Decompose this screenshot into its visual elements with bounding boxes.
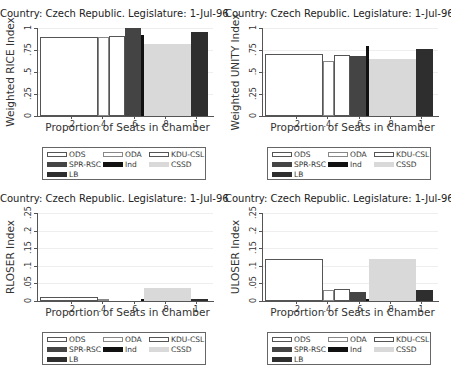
legend-swatch — [374, 162, 394, 167]
rice-panel: Country: Czech Republic. Legislature: 1-… — [0, 0, 225, 184]
y-axis — [37, 213, 38, 301]
legend-swatch — [272, 172, 292, 177]
x-tick-mark — [165, 301, 166, 304]
legend-swatch — [149, 337, 169, 342]
legend-item-kdu-csl: KDU-CSL — [374, 335, 429, 344]
legend-item-cssd: CSSD — [149, 345, 192, 354]
bar-cssd — [144, 44, 191, 116]
y-tick-label: .1 — [249, 255, 258, 275]
bar-spr-rsc — [125, 28, 141, 116]
y-tick-label: .15 — [249, 238, 258, 258]
legend-item-ods: ODS — [272, 150, 310, 159]
legend: ODSODAKDU-CSLSPR-RSCIndCSSDLB — [42, 332, 206, 365]
bar-spr-rsc — [350, 56, 366, 116]
legend-item-ind: Ind — [328, 160, 362, 169]
legend-label: CSSD — [396, 160, 417, 169]
uloser-panel: Country: Czech Republic. Legislature: 1-… — [225, 185, 450, 369]
y-tick-label: .05 — [249, 273, 258, 293]
x-axis-label: Proportion of Seats in Chamber — [30, 121, 225, 133]
plot-area — [38, 28, 213, 116]
x-tick-mark — [134, 301, 135, 304]
legend-item-oda: ODA — [103, 150, 142, 159]
legend-swatch — [47, 152, 67, 157]
x-tick-mark — [165, 116, 166, 119]
legend-label: ODA — [125, 150, 142, 159]
legend-item-ods: ODS — [47, 150, 85, 159]
legend-swatch — [272, 357, 292, 362]
legend-swatch — [103, 337, 123, 342]
y-tick-label: .25 — [24, 84, 33, 104]
x-tick-mark — [71, 116, 72, 119]
legend-label: ODS — [69, 335, 85, 344]
legend-label: ODA — [350, 335, 367, 344]
y-tick-label: .75 — [249, 40, 258, 60]
legend-item-spr-rsc: SPR-RSC — [47, 345, 101, 354]
y-tick-label: .75 — [24, 40, 33, 60]
legend-label: CSSD — [396, 345, 417, 354]
y-tick-label: 1 — [24, 18, 33, 38]
legend-swatch — [272, 347, 292, 352]
y-tick-label: .05 — [24, 273, 33, 293]
legend-swatch — [328, 162, 348, 167]
legend-label: SPR-RSC — [69, 160, 101, 169]
y-tick-label: .15 — [24, 238, 33, 258]
x-tick-mark — [327, 116, 328, 119]
bar-ods — [265, 259, 323, 301]
y-axis-label: ULOSER Index — [229, 197, 241, 317]
x-tick-mark — [390, 301, 391, 304]
x-tick-mark — [134, 116, 135, 119]
plot-area — [263, 28, 438, 116]
legend-item-ods: ODS — [47, 335, 85, 344]
x-tick-mark — [102, 116, 103, 119]
legend-item-cssd: CSSD — [374, 160, 417, 169]
x-tick-mark — [196, 116, 197, 119]
x-tick-mark — [359, 116, 360, 119]
x-tick-mark — [327, 301, 328, 304]
x-tick-mark — [71, 301, 72, 304]
legend-swatch — [149, 347, 169, 352]
x-tick-mark — [390, 116, 391, 119]
legend-item-lb: LB — [47, 355, 78, 364]
y-axis-label: Weighted RICE Index — [4, 12, 16, 132]
rloser-panel: Country: Czech Republic. Legislature: 1-… — [0, 185, 225, 369]
legend-item-lb: LB — [272, 170, 303, 179]
legend-item-spr-rsc: SPR-RSC — [47, 160, 101, 169]
legend-swatch — [47, 337, 67, 342]
y-axis — [37, 28, 38, 116]
legend-swatch — [47, 162, 67, 167]
legend-item-spr-rsc: SPR-RSC — [272, 345, 326, 354]
x-tick-mark — [421, 116, 422, 119]
legend-swatch — [374, 337, 394, 342]
chart-title: Country: Czech Republic. Legislature: 1-… — [0, 193, 225, 204]
legend-label: LB — [69, 355, 78, 364]
legend-item-oda: ODA — [103, 335, 142, 344]
legend-swatch — [103, 162, 123, 167]
y-axis — [262, 213, 263, 301]
legend-label: CSSD — [171, 160, 192, 169]
y-tick-label: .2 — [249, 220, 258, 240]
y-axis-label: RLOSER Index — [4, 197, 16, 317]
legend-label: Ind — [350, 345, 362, 354]
legend-label: Ind — [125, 345, 137, 354]
legend-label: ODS — [69, 150, 85, 159]
legend-label: CSSD — [171, 345, 192, 354]
legend-item-kdu-csl: KDU-CSL — [374, 150, 429, 159]
legend-label: ODS — [294, 150, 310, 159]
legend-swatch — [47, 357, 67, 362]
legend-item-kdu-csl: KDU-CSL — [149, 335, 204, 344]
bar-ods — [40, 37, 98, 116]
x-tick-mark — [102, 301, 103, 304]
y-tick-label: .25 — [249, 84, 258, 104]
legend-swatch — [272, 152, 292, 157]
bar-cssd — [369, 259, 416, 301]
legend-item-spr-rsc: SPR-RSC — [272, 160, 326, 169]
legend: ODSODAKDU-CSLSPR-RSCIndCSSDLB — [267, 147, 431, 180]
bar-ods — [265, 54, 323, 116]
legend-item-ods: ODS — [272, 335, 310, 344]
legend-swatch — [149, 152, 169, 157]
y-tick-label: .2 — [24, 220, 33, 240]
x-tick-mark — [296, 301, 297, 304]
bar-oda — [323, 61, 335, 116]
legend-swatch — [374, 152, 394, 157]
legend-swatch — [328, 152, 348, 157]
